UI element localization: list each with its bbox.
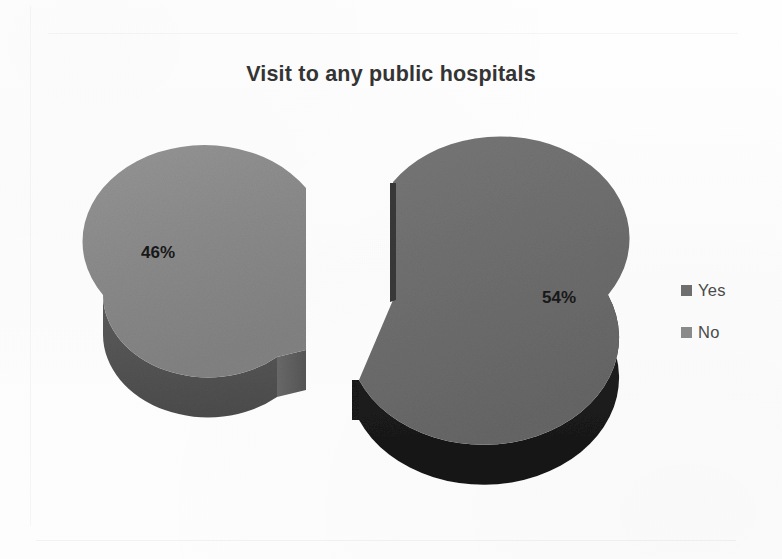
pie-slice-yes-top[interactable] — [359, 136, 630, 444]
chart-screenshot: Visit to any public hospitals — [0, 0, 782, 559]
square-marker-icon — [681, 285, 692, 296]
pie-label-no: 46% — [141, 243, 175, 262]
legend-item-no[interactable]: No — [681, 322, 777, 343]
legend-label-no: No — [698, 324, 720, 341]
chart-legend: Yes No — [681, 280, 777, 364]
pie-chart-svg: 46% 54% — [0, 0, 782, 559]
legend-item-yes[interactable]: Yes — [681, 280, 777, 301]
pie-label-yes: 54% — [542, 288, 576, 307]
legend-label-yes: Yes — [698, 282, 726, 299]
pie-chart-plot-area: 46% 54% — [0, 0, 782, 559]
square-marker-icon — [681, 327, 692, 338]
pie-slice-yes-cut-edge — [390, 183, 396, 302]
